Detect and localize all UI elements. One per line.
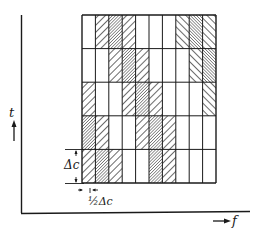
grid-cell <box>162 116 175 150</box>
grid-cell <box>203 15 216 49</box>
grid-cell <box>189 49 202 83</box>
grid-cell <box>122 116 135 150</box>
grid-cell <box>203 116 216 150</box>
grid-cell <box>95 15 108 49</box>
y-axis-arrow-icon <box>12 120 17 141</box>
grid-cell <box>95 149 108 183</box>
grid-cell <box>149 15 162 49</box>
grid-cell <box>95 82 108 116</box>
x-axis-label: f <box>232 214 237 227</box>
y-axis-label: t <box>9 106 14 119</box>
grid-cell <box>149 82 162 116</box>
grid-cell <box>176 82 189 116</box>
grid-cell <box>82 15 95 49</box>
grid-cell <box>176 15 189 49</box>
grid-cell <box>149 149 162 183</box>
grid-cell <box>122 149 135 183</box>
grid-cell <box>149 116 162 150</box>
time-frequency-diagram <box>0 0 260 235</box>
x-axis-arrow-icon <box>213 219 231 224</box>
half-delta-c-dimension-marker <box>78 188 98 193</box>
grid-cell <box>189 149 202 183</box>
grid-cell <box>136 49 149 83</box>
grid-cell <box>136 82 149 116</box>
grid-cell <box>109 82 122 116</box>
grid-cell <box>176 149 189 183</box>
x-axis <box>21 212 250 214</box>
grid-cell <box>162 149 175 183</box>
grid-cell <box>189 116 202 150</box>
grid-cell <box>136 149 149 183</box>
half-delta-c-label: ½Δc <box>88 196 113 207</box>
grid-cell <box>95 49 108 83</box>
grid-cell <box>162 49 175 83</box>
grid-cell <box>109 149 122 183</box>
grid-cell <box>109 49 122 83</box>
grid-cell <box>136 116 149 150</box>
grid-cell <box>109 116 122 150</box>
grid-cell <box>203 49 216 83</box>
grid-cell <box>189 82 202 116</box>
grid-cell <box>136 15 149 49</box>
grid-cell <box>162 15 175 49</box>
grid-cell <box>176 116 189 150</box>
grid-cell <box>122 15 135 49</box>
grid-cell <box>109 15 122 49</box>
grid-cell <box>203 149 216 183</box>
grid-cell <box>95 116 108 150</box>
grid-cell <box>82 149 95 183</box>
grid-cell <box>82 49 95 83</box>
grid-cell <box>82 116 95 150</box>
grid-cell <box>122 49 135 83</box>
grid-cell <box>176 49 189 83</box>
grid-cell <box>203 82 216 116</box>
grid-cell <box>122 82 135 116</box>
grid-cell <box>82 82 95 116</box>
grid-cell <box>189 15 202 49</box>
grid-cell <box>162 82 175 116</box>
delta-c-label: Δc <box>64 159 79 171</box>
grid-cell <box>149 49 162 83</box>
